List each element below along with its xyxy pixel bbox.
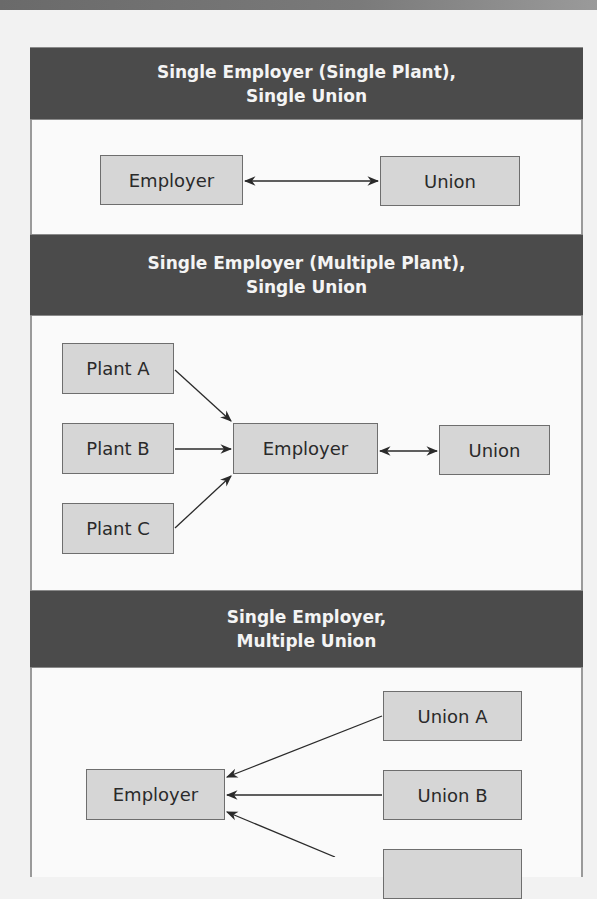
page-top-strip <box>0 0 597 10</box>
section-title-line1: Single Employer (Single Plant), <box>30 60 583 84</box>
node-employer: Employer <box>86 769 225 820</box>
node-union-b: Union B <box>383 770 522 820</box>
section-title-line1: Single Employer (Multiple Plant), <box>30 251 583 275</box>
node-plant-c: Plant C <box>62 503 174 554</box>
node-union-a: Union A <box>383 691 522 741</box>
node-plant-b: Plant B <box>62 423 174 474</box>
section-title-line1: Single Employer, <box>30 605 583 629</box>
node-union-c <box>383 849 522 899</box>
section-header-single-employer-multiple-union: Single Employer, Multiple Union <box>30 590 583 668</box>
node-employer: Employer <box>100 155 243 205</box>
section-title-line2: Multiple Union <box>30 629 583 653</box>
node-plant-a: Plant A <box>62 343 174 394</box>
section-header-multiple-plant-single-union: Single Employer (Multiple Plant), Single… <box>30 234 583 316</box>
node-union: Union <box>380 156 520 206</box>
section-title-line2: Single Union <box>30 84 583 108</box>
node-union: Union <box>439 425 550 475</box>
node-employer: Employer <box>233 423 378 474</box>
section-title-line2: Single Union <box>30 275 583 299</box>
section-header-single-plant-single-union: Single Employer (Single Plant), Single U… <box>30 47 583 120</box>
